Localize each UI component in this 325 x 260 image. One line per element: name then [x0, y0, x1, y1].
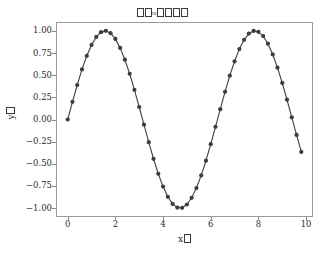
y-tick-label: 0.75 — [6, 49, 52, 58]
x-tick-label: 2 — [103, 220, 127, 229]
data-point — [66, 117, 70, 121]
data-point — [194, 186, 198, 190]
data-point — [123, 58, 127, 62]
data-point — [156, 172, 160, 176]
x-tick-label: 8 — [246, 220, 270, 229]
y-tick-mark — [52, 97, 56, 98]
data-point — [137, 105, 141, 109]
data-point — [80, 67, 84, 71]
data-point — [161, 184, 165, 188]
x-tick-mark — [258, 217, 259, 221]
y-tick-mark — [52, 53, 56, 54]
data-point — [175, 205, 179, 209]
data-point — [237, 47, 241, 51]
data-point — [132, 88, 136, 92]
data-point — [204, 159, 208, 163]
data-point — [180, 206, 184, 210]
y-tick-label: −0.75 — [6, 181, 52, 190]
data-point — [118, 46, 122, 50]
data-point — [256, 30, 260, 34]
sine-curve-line — [68, 31, 302, 208]
y-tick-label: −0.50 — [6, 159, 52, 168]
data-point — [142, 123, 146, 127]
data-point — [242, 38, 246, 42]
data-point — [275, 66, 279, 70]
y-tick-label: 1.00 — [6, 26, 52, 35]
missing-glyph-box — [184, 234, 191, 243]
y-tick-mark — [52, 164, 56, 165]
data-point — [75, 83, 79, 87]
missing-glyph-box — [165, 8, 172, 17]
y-tick-label: 0.50 — [6, 71, 52, 80]
y-tick-mark — [52, 186, 56, 187]
data-point — [266, 42, 270, 46]
chart-title: nc — [0, 7, 325, 19]
missing-glyph-box — [6, 107, 15, 114]
data-point — [213, 125, 217, 129]
line-chart-canvas — [56, 22, 313, 217]
matplotlib-figure: nc 1.000.750.500.250.00−0.25−0.50−0.75−1… — [0, 0, 325, 260]
data-point — [232, 59, 236, 63]
data-point — [280, 81, 284, 85]
y-tick-mark — [52, 75, 56, 76]
data-point — [128, 72, 132, 76]
data-point — [223, 90, 227, 94]
x-tick-mark — [115, 217, 116, 221]
x-axis-label: x — [56, 234, 313, 244]
y-tick-mark — [52, 208, 56, 209]
x-tick-mark — [163, 217, 164, 221]
y-tick-mark — [52, 142, 56, 143]
missing-glyph-box — [145, 8, 152, 17]
data-point — [285, 98, 289, 102]
data-point — [94, 35, 98, 39]
data-point — [261, 34, 265, 38]
data-point — [166, 195, 170, 199]
data-point — [104, 29, 108, 33]
data-point — [108, 31, 112, 35]
data-point — [99, 30, 103, 34]
missing-glyph-box — [173, 8, 180, 17]
data-point — [294, 133, 298, 137]
data-point — [151, 157, 155, 161]
x-tick-label: 6 — [199, 220, 223, 229]
data-point — [85, 54, 89, 58]
x-tick-mark — [211, 217, 212, 221]
x-tick-label: 10 — [294, 220, 318, 229]
x-tick-label: 0 — [56, 220, 80, 229]
x-tick-mark — [68, 217, 69, 221]
data-point — [209, 142, 213, 146]
data-point — [228, 74, 232, 78]
y-tick-mark — [52, 120, 56, 121]
y-axis-label: y — [6, 96, 16, 130]
data-point — [190, 196, 194, 200]
data-point — [147, 140, 151, 144]
data-point — [170, 202, 174, 206]
data-point — [89, 43, 93, 47]
y-axis-label-prefix: y — [6, 114, 16, 119]
missing-glyph-box — [157, 8, 164, 17]
data-point — [247, 32, 251, 36]
data-point — [199, 173, 203, 177]
y-tick-label: −0.25 — [6, 137, 52, 146]
y-tick-mark — [52, 31, 56, 32]
x-tick-label: 4 — [151, 220, 175, 229]
data-point — [185, 202, 189, 206]
data-point — [299, 150, 303, 154]
data-point — [290, 115, 294, 119]
data-point — [218, 107, 222, 111]
data-point — [252, 29, 256, 33]
sine-curve-markers — [66, 29, 304, 210]
x-axis-label-prefix: x — [178, 234, 183, 244]
data-point — [70, 100, 74, 104]
missing-glyph-box — [137, 8, 144, 17]
x-tick-mark — [306, 217, 307, 221]
missing-glyph-box — [181, 8, 188, 17]
data-point — [113, 37, 117, 41]
title-inner-text: nc — [152, 10, 157, 16]
y-tick-label: −1.00 — [6, 204, 52, 213]
data-point — [271, 52, 275, 56]
